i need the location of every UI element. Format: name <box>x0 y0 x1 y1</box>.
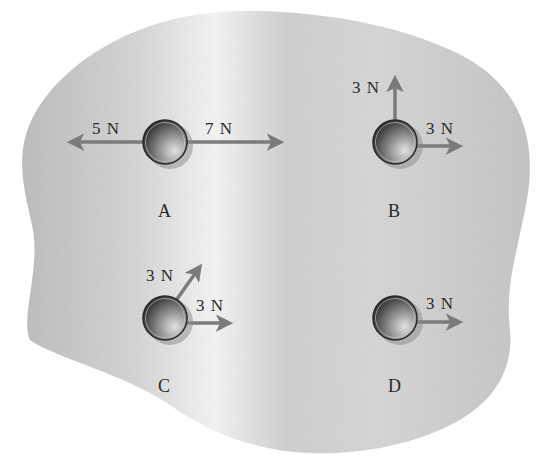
force-label-d-right: 3 N <box>426 294 454 313</box>
force-label-b-right: 3 N <box>426 119 454 138</box>
force-diagram: 5 N 7 N A 3 N 3 N B 3 N 3 N C <box>0 0 547 464</box>
ball-label-d: D <box>388 376 401 396</box>
force-label-b-up: 3 N <box>352 78 380 97</box>
ball-c <box>143 296 187 340</box>
ball-a <box>143 120 187 164</box>
ball-d <box>373 296 417 340</box>
force-label-a-left: 5 N <box>92 119 120 138</box>
ball-b <box>373 120 417 164</box>
force-label-c-right: 3 N <box>196 296 224 315</box>
force-label-c-diagonal: 3 N <box>146 266 174 285</box>
surface-blob <box>22 11 530 453</box>
ball-label-b: B <box>388 201 400 221</box>
ball-label-c: C <box>158 376 170 396</box>
ball-label-a: A <box>158 201 171 221</box>
force-label-a-right: 7 N <box>205 119 233 138</box>
